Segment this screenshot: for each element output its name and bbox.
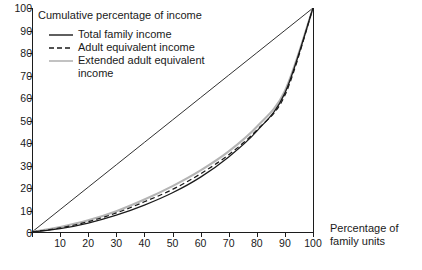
legend-item-adult-equivalent-income: Adult equivalent income: [48, 41, 205, 54]
x-axis-title: Percentage of family units: [330, 222, 399, 248]
chart-title: Cumulative percentage of income: [38, 9, 202, 22]
legend-item-total-family-income: Total family income: [48, 28, 205, 41]
plot-right-border: [313, 8, 314, 233]
x-axis-title-line2: family units: [330, 235, 399, 248]
x-tick-label: 100: [301, 238, 325, 249]
x-tick-label: 50: [161, 238, 185, 249]
legend-swatch-solid-line-icon: [48, 28, 78, 41]
legend-swatch-dashed-line-icon: [48, 41, 78, 54]
x-tick-label: 40: [132, 238, 156, 249]
legend-label-continuation: income: [78, 67, 205, 80]
legend-label: Total family income: [78, 28, 172, 41]
y-tick-label: 0: [6, 228, 32, 238]
x-tick-label: 20: [76, 238, 100, 249]
x-axis-title-line1: Percentage of: [330, 222, 399, 235]
x-tick-label: 80: [245, 238, 269, 249]
x-tick-label: 60: [189, 238, 213, 249]
legend-label: Adult equivalent income: [78, 41, 195, 54]
chart-container: 100 90 80 70 60 50 40 30 20 10 0: [0, 0, 422, 270]
legend-item-extended-adult-equivalent-income: Extended adult equivalent: [48, 54, 205, 67]
chart-legend: Total family income Adult equivalent inc…: [48, 28, 205, 80]
x-tick-label: 70: [217, 238, 241, 249]
legend-swatch-grey-line-icon: [48, 54, 78, 67]
x-tick-label: 90: [273, 238, 297, 249]
legend-label: Extended adult equivalent: [78, 54, 205, 67]
x-tick-label: 30: [104, 238, 128, 249]
x-tick-label: 10: [48, 238, 72, 249]
